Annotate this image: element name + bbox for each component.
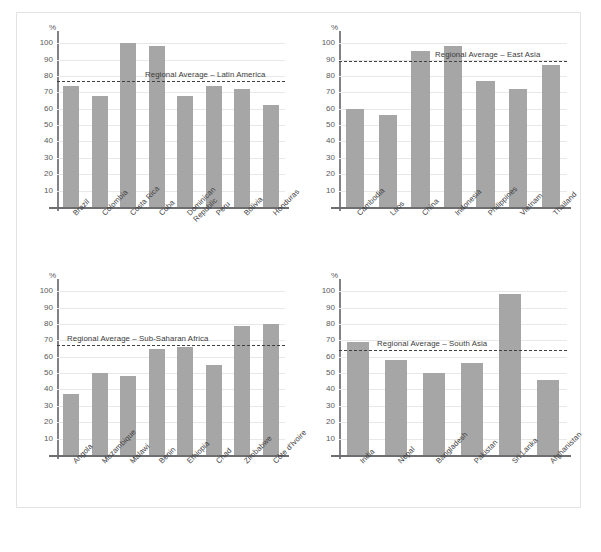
bar[interactable] — [385, 360, 406, 455]
y-axis-tick-label: 70 — [44, 336, 53, 344]
bar-slot — [491, 283, 529, 455]
bar[interactable] — [263, 105, 279, 207]
bar[interactable] — [499, 294, 520, 455]
bar[interactable] — [537, 380, 558, 455]
bar[interactable] — [63, 86, 79, 207]
bar-slot — [415, 283, 453, 455]
y-axis-tick-label: 50 — [326, 369, 335, 377]
y-axis-tick-label: 90 — [44, 304, 53, 312]
y-axis-tick-label: 40 — [326, 385, 335, 393]
y-axis-tick-label: 50 — [44, 369, 53, 377]
plot-area-0: 102030405060708090100 Regional Average –… — [57, 35, 285, 207]
y-axis-tick-label: 30 — [44, 402, 53, 410]
bar[interactable] — [346, 109, 364, 207]
x-axis-labels-1: CambodiaLaosChinaIndonesiaPhilippinesVie… — [339, 211, 567, 261]
bar-slot — [57, 35, 86, 207]
bar-slot — [57, 283, 86, 455]
y-axis-tick-label: 60 — [326, 353, 335, 361]
average-label-1: Regional Average – East Asia — [435, 50, 540, 59]
y-axis-tick-label: 50 — [44, 121, 53, 129]
bar[interactable] — [347, 342, 368, 455]
y-axis-tick-label: 60 — [44, 105, 53, 113]
y-axis-unit-3: % — [331, 271, 338, 280]
bar[interactable] — [234, 89, 250, 207]
bar[interactable] — [461, 363, 482, 455]
bar[interactable] — [120, 43, 136, 207]
y-axis-tick-label: 10 — [326, 187, 335, 195]
average-line-0 — [57, 81, 285, 82]
y-axis-tick-label: 40 — [326, 137, 335, 145]
average-label-3: Regional Average – South Asia — [377, 339, 487, 348]
y-axis-tick-label: 10 — [44, 435, 53, 443]
chart-panel-south-asia: % 102030405060708090100 Regional Average… — [299, 261, 581, 509]
y-axis-tick-label: 60 — [326, 105, 335, 113]
y-axis-unit-1: % — [331, 23, 338, 32]
plot-area-3: 102030405060708090100 Regional Average –… — [339, 283, 567, 455]
y-axis-tick-label: 30 — [44, 154, 53, 162]
y-axis-tick-label: 80 — [326, 320, 335, 328]
bar-slot — [529, 283, 567, 455]
y-axis-tick-label: 90 — [326, 304, 335, 312]
panel-grid: % 102030405060708090100 Regional Average… — [17, 13, 580, 507]
bar[interactable] — [476, 81, 494, 207]
bar-slot — [453, 283, 491, 455]
bar[interactable] — [63, 394, 79, 455]
bar[interactable] — [177, 347, 193, 455]
chart-panel-latin-america: % 102030405060708090100 Regional Average… — [17, 13, 299, 261]
average-line-2 — [57, 345, 285, 346]
bar-series-0 — [57, 35, 285, 207]
bar-slot — [143, 283, 172, 455]
bar-slot — [228, 283, 257, 455]
y-axis-tick-label: 20 — [326, 170, 335, 178]
bar[interactable] — [149, 349, 165, 455]
y-axis-tick-label: 40 — [44, 137, 53, 145]
bar[interactable] — [444, 46, 462, 207]
bar[interactable] — [542, 65, 560, 208]
bar[interactable] — [177, 96, 193, 207]
bar-slot — [377, 283, 415, 455]
bar-slot — [339, 283, 377, 455]
y-axis-tick-label: 10 — [44, 187, 53, 195]
y-axis-tick-label: 60 — [44, 353, 53, 361]
x-axis-labels-3: IndiaNepalBangladeshPakistanSri LankaAfg… — [339, 459, 567, 509]
bar[interactable] — [92, 373, 108, 455]
y-axis-tick-label: 100 — [40, 287, 53, 295]
y-axis-tick-label: 10 — [326, 435, 335, 443]
plot-area-2: 102030405060708090100 Regional Average –… — [57, 283, 285, 455]
y-axis-tick-label: 100 — [322, 287, 335, 295]
y-axis-tick-label: 40 — [44, 385, 53, 393]
chart-panel-sub-saharan-africa: % 102030405060708090100 Regional Average… — [17, 261, 299, 509]
bar-slot — [171, 35, 200, 207]
bar-slot — [86, 35, 115, 207]
y-axis-tick-label: 20 — [44, 170, 53, 178]
average-label-2: Regional Average – Sub-Saharan Africa — [67, 334, 208, 343]
y-axis-tick-label: 20 — [326, 418, 335, 426]
chart-panel-east-asia: % 102030405060708090100 Regional Average… — [299, 13, 581, 261]
y-axis-tick-label: 50 — [326, 121, 335, 129]
y-axis-tick-label: 70 — [44, 88, 53, 96]
bar-slot — [171, 283, 200, 455]
y-axis-tick-label: 70 — [326, 88, 335, 96]
y-axis-unit-0: % — [49, 23, 56, 32]
plot-area-1: 102030405060708090100 Regional Average –… — [339, 35, 567, 207]
bar[interactable] — [423, 373, 444, 455]
bar-slot — [86, 283, 115, 455]
y-axis-tick-label: 30 — [326, 402, 335, 410]
y-axis-tick-label: 90 — [44, 56, 53, 64]
x-axis-labels-0: BrazilColombiaCosta RicaCubaDominican Re… — [57, 211, 285, 261]
bar-series-2 — [57, 283, 285, 455]
bar[interactable] — [411, 51, 429, 207]
x-axis-labels-2: AngolaMozambiqueMalawiBeninEthiopiaChadZ… — [57, 459, 285, 509]
y-axis-tick-label: 80 — [44, 72, 53, 80]
bar-slot — [143, 35, 172, 207]
y-axis-tick-label: 70 — [326, 336, 335, 344]
y-axis-tick-label: 30 — [326, 154, 335, 162]
bar-slot — [200, 283, 229, 455]
figure-frame: % 102030405060708090100 Regional Average… — [16, 12, 581, 508]
average-line-3 — [339, 350, 567, 351]
bar[interactable] — [92, 96, 108, 207]
y-axis-tick-label: 100 — [40, 39, 53, 47]
y-axis-tick-label: 80 — [44, 320, 53, 328]
average-line-1 — [339, 61, 567, 62]
y-axis-tick-label: 90 — [326, 56, 335, 64]
